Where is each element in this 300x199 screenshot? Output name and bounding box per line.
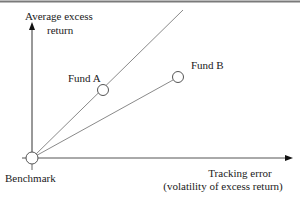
y-axis-label-line2: return xyxy=(47,24,73,36)
benchmark-point xyxy=(26,152,38,164)
fund-a-point xyxy=(98,85,109,96)
x-axis-label-line1: Tracking error xyxy=(190,167,290,179)
fund-b-point xyxy=(173,72,184,83)
diagram-canvas: Average excess return Fund A Fund B Benc… xyxy=(0,0,300,199)
y-axis-label-line1: Average excess xyxy=(25,10,93,22)
fund-a-label: Fund A xyxy=(68,72,101,84)
fund-b-label: Fund B xyxy=(191,59,224,71)
x-axis-label-line2: (volatility of excess return) xyxy=(150,180,296,192)
x-axis-arrow-icon xyxy=(285,155,293,161)
y-axis-arrow-icon xyxy=(29,22,35,30)
benchmark-label: Benchmark xyxy=(5,172,56,184)
